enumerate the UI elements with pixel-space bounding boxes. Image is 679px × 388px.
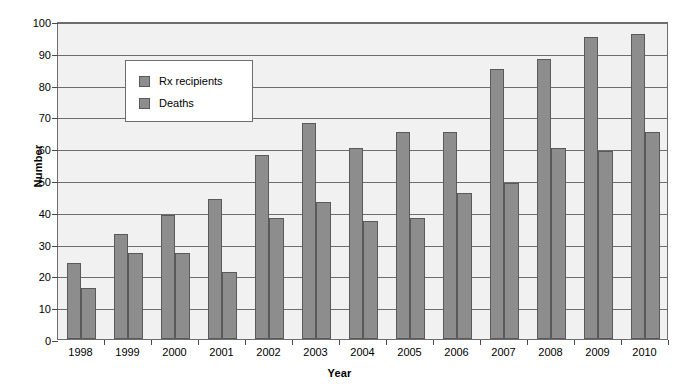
bar xyxy=(443,132,457,339)
legend-label: Deaths xyxy=(159,97,194,109)
bar xyxy=(81,288,95,339)
x-tick-mark xyxy=(245,340,246,345)
bar xyxy=(598,151,612,339)
x-tick-mark xyxy=(574,340,575,345)
x-tick-label: 2001 xyxy=(209,346,233,358)
bar-group xyxy=(396,23,424,339)
bar-chart: Number 0102030405060708090100 Rx recipie… xyxy=(0,0,679,388)
x-tick-label: 2004 xyxy=(350,346,374,358)
legend: Rx recipients Deaths xyxy=(125,60,253,122)
bar xyxy=(410,218,424,339)
x-axis-title: Year xyxy=(0,367,679,379)
x-tick-label: 1998 xyxy=(68,346,92,358)
bar xyxy=(363,221,377,339)
bar xyxy=(67,263,81,339)
bar-group xyxy=(349,23,377,339)
bar-group xyxy=(490,23,518,339)
x-tick-label: 2008 xyxy=(538,346,562,358)
bar xyxy=(302,123,316,339)
x-tick-mark xyxy=(104,340,105,345)
x-tick-label: 2005 xyxy=(397,346,421,358)
x-tick-label: 2002 xyxy=(256,346,280,358)
legend-item-rx-recipients: Rx recipients xyxy=(139,70,252,92)
bar-group xyxy=(537,23,565,339)
bar xyxy=(537,59,551,339)
x-tick-label: 2003 xyxy=(303,346,327,358)
bar xyxy=(316,202,330,339)
legend-swatch-icon xyxy=(139,76,150,87)
bar xyxy=(114,234,128,339)
y-tick-mark xyxy=(52,341,58,342)
x-tick-mark xyxy=(339,340,340,345)
x-tick-label: 2007 xyxy=(491,346,515,358)
bar xyxy=(504,183,518,339)
x-tick-label: 2000 xyxy=(162,346,186,358)
x-tick-mark xyxy=(292,340,293,345)
bar xyxy=(128,253,142,339)
x-tick-label: 1999 xyxy=(115,346,139,358)
bar xyxy=(161,215,175,339)
legend-label: Rx recipients xyxy=(159,75,223,87)
bar xyxy=(222,272,236,339)
x-tick-label: 2006 xyxy=(444,346,468,358)
bar-group xyxy=(302,23,330,339)
bar xyxy=(551,148,565,339)
bar-group xyxy=(584,23,612,339)
x-tick-mark xyxy=(480,340,481,345)
x-tick-mark xyxy=(151,340,152,345)
bar xyxy=(269,218,283,339)
bar-group xyxy=(631,23,659,339)
x-tick-mark xyxy=(621,340,622,345)
legend-item-deaths: Deaths xyxy=(139,92,252,114)
bar xyxy=(175,253,189,339)
bar xyxy=(349,148,363,339)
x-tick-mark xyxy=(527,340,528,345)
bar xyxy=(457,193,471,339)
legend-swatch-icon xyxy=(139,98,150,109)
x-tick-label: 2010 xyxy=(632,346,656,358)
bar xyxy=(255,155,269,339)
x-tick-mark xyxy=(668,340,669,345)
bar xyxy=(584,37,598,339)
bar-group xyxy=(255,23,283,339)
bar xyxy=(396,132,410,339)
x-tick-mark xyxy=(433,340,434,345)
bar-group xyxy=(67,23,95,339)
x-tick-mark xyxy=(198,340,199,345)
bar xyxy=(490,69,504,339)
plot-area: 0102030405060708090100 Rx recipients Dea… xyxy=(57,22,668,340)
bar xyxy=(631,34,645,339)
bar xyxy=(645,132,659,339)
bar xyxy=(208,199,222,339)
bar-group xyxy=(443,23,471,339)
x-tick-mark xyxy=(386,340,387,345)
x-tick-label: 2009 xyxy=(585,346,609,358)
